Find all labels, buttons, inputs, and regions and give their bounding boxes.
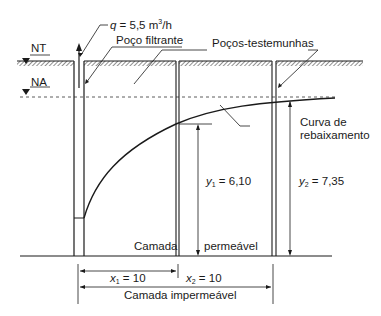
curve-label-line2: rebaixamento: [300, 130, 370, 142]
layer-left-label: Camada: [134, 241, 177, 253]
observation-wells-label: Poços-testemunhas: [212, 38, 314, 50]
observation-well-1: [176, 61, 179, 256]
nt-label: NT: [31, 43, 46, 55]
pumping-well-label: Poço filtrante: [116, 35, 183, 47]
x1-label: x1 = 10: [110, 273, 146, 285]
flow-rate-label: q = 5,5 m3/h: [110, 18, 172, 32]
na-label: NA: [31, 77, 47, 89]
y1-dimension: [179, 124, 212, 256]
x2-label: x2 = 10: [186, 273, 222, 285]
y2-dimension: [288, 101, 292, 256]
y1-label: y1 = 6,10: [206, 176, 251, 188]
layer-right-label: permeável: [204, 241, 258, 253]
diagram-canvas: [0, 0, 381, 316]
ground-surface: [17, 61, 363, 66]
impermeable-layer-label: Camada impermeável: [124, 290, 237, 302]
y2-label: y2 = 7,35: [299, 176, 344, 188]
pumping-well: [74, 43, 84, 256]
drawdown-curve: [84, 98, 335, 218]
curve-label-line1: Curva de: [300, 117, 347, 129]
observation-well-2: [272, 61, 276, 256]
